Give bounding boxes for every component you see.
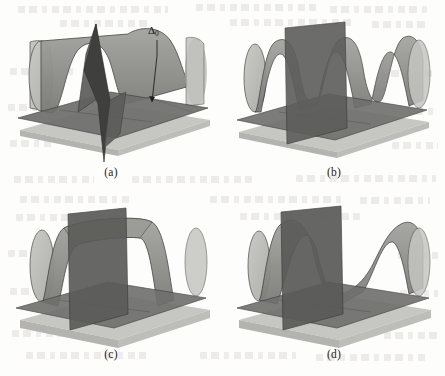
vertical-cut-plane-left	[281, 206, 343, 330]
panel-label-c: (c)	[0, 348, 222, 360]
panel-d: (d)	[223, 188, 445, 376]
panel-label-b: (b)	[223, 166, 445, 178]
vertical-cut-plane-left	[285, 22, 347, 144]
figure-root: Δ0 (a)	[0, 0, 445, 376]
panel-a: Δ0 (a)	[0, 0, 222, 188]
surface-near-cap	[408, 40, 430, 108]
panel-b: (b)	[223, 0, 445, 188]
panel-label-a: (a)	[0, 166, 222, 178]
vertical-cut-plane-left	[68, 208, 128, 330]
delta-leader-line	[0, 0, 222, 188]
vertical-cut-plane-right	[345, 22, 365, 128]
panel-label-d: (d)	[223, 348, 445, 360]
panel-b-plot	[223, 0, 445, 188]
surface-near-cap	[185, 228, 207, 296]
surface-near-cap	[408, 228, 430, 296]
panel-c: (c)	[0, 188, 222, 376]
